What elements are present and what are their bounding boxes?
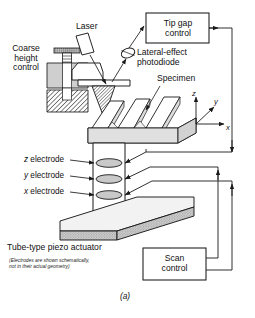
tube-piezo-actuator-label: Tube-type piezo actuator: [7, 243, 102, 253]
z-electrode-shape: [96, 159, 122, 168]
axis-y-label: y: [214, 98, 218, 107]
z-electrode-axis-letter: z: [24, 155, 28, 164]
cantilever-holder: [72, 63, 103, 80]
axis-x-label: x: [226, 124, 230, 133]
base-plate-front-edge: [60, 231, 117, 240]
axis-z-label: z: [192, 90, 196, 99]
tip-gap-control-label: Tip gap control: [136, 19, 220, 38]
x-electrode-shape: [96, 191, 122, 200]
shaft-through-block: [63, 63, 72, 88]
x-electrode-label: x electrode: [24, 187, 64, 196]
laser-label: Laser: [76, 22, 98, 32]
coarse-height-control-label: Coarse height control: [2, 44, 50, 73]
x-electrode-axis-letter: x: [24, 187, 28, 196]
scan-control-label: Scan control: [133, 254, 216, 273]
y-electrode-label: y electrode: [24, 171, 64, 180]
y-electrode-axis-letter: y: [24, 171, 28, 180]
specimen-label: Specimen: [157, 74, 195, 84]
figure-caption: (a): [100, 292, 150, 301]
coarse-control-cap: [54, 48, 80, 53]
specimen-front-face: [88, 128, 178, 143]
electrode-geometry-note: (Electrodes are shown schematically, not…: [9, 258, 89, 270]
y-electrode-shape: [96, 175, 122, 184]
lateral-effect-photodiode-label: Lateral-effect photodiode: [137, 48, 187, 67]
z-electrode-label: z electrode: [24, 155, 64, 164]
shaft-foot: [63, 88, 72, 100]
